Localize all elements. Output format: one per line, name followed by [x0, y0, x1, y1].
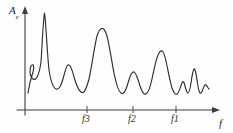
- amplitude-spectrum-figure: Ae f f3 f2 f1: [0, 0, 233, 133]
- spectrum-curve: [28, 13, 209, 94]
- tick-label-f1: f1: [171, 113, 179, 124]
- x-axis-label-base: f: [219, 117, 222, 129]
- y-axis-label-base: A: [9, 4, 16, 16]
- tick-label-f1-subscript: 1: [174, 113, 179, 124]
- x-axis-arrowhead: [212, 107, 220, 113]
- tick-label-f3: f3: [82, 113, 90, 124]
- tick-label-f2: f2: [128, 113, 136, 124]
- y-axis-label-subscript: e: [16, 13, 19, 20]
- tick-label-f3-subscript: 3: [85, 113, 90, 124]
- y-axis-arrowhead: [22, 6, 28, 14]
- x-axis-label: f: [219, 118, 222, 129]
- plot-canvas: [0, 0, 233, 133]
- y-axis-label: Ae: [9, 5, 19, 19]
- tick-label-f2-subscript: 2: [131, 113, 136, 124]
